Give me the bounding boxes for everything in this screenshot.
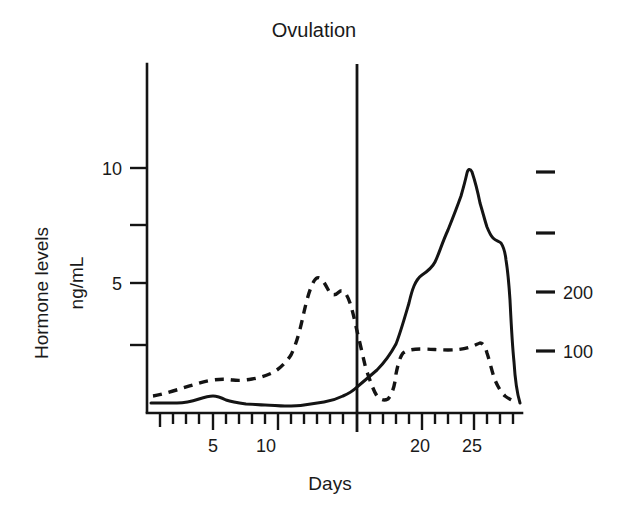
x-axis-ticks: [160, 413, 513, 430]
chart-title: Ovulation: [272, 19, 357, 41]
x-tick-label-5: 5: [208, 436, 218, 456]
y-tick-label-5: 5: [112, 274, 122, 294]
right-tick-label-200: 200: [563, 283, 593, 303]
y-axis-ticks: [130, 168, 147, 345]
y-axis-label: Hormone levels ng/mL: [31, 227, 87, 359]
x-tick-label-20: 20: [410, 436, 430, 456]
right-axis-ticks: [536, 172, 555, 351]
right-tick-label-100: 100: [563, 342, 593, 362]
progesterone-solid-curve: [151, 169, 520, 406]
hormone-cycle-chart: Ovulation Hormone levels ng/mL 10 5: [0, 0, 628, 511]
estrogen-dashed-curve: [153, 278, 517, 402]
chart-svg: Ovulation Hormone levels ng/mL 10 5: [0, 0, 628, 511]
y-axis-label-line2: ng/mL: [66, 257, 87, 310]
y-tick-label-10: 10: [102, 159, 122, 179]
x-axis-label: Days: [308, 473, 351, 494]
x-tick-label-10: 10: [256, 436, 276, 456]
x-tick-label-25: 25: [462, 436, 482, 456]
y-axis-label-line1: Hormone levels: [31, 227, 52, 359]
